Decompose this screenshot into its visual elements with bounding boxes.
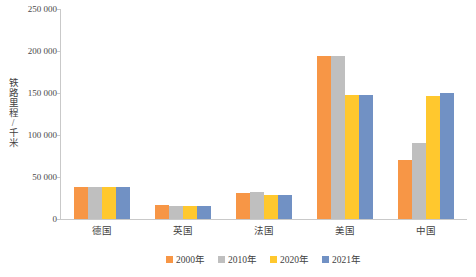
bar-group xyxy=(61,9,142,219)
bar xyxy=(102,187,116,219)
y-tick-label: 250 000 xyxy=(1,4,57,14)
legend-item[interactable]: 2000年 xyxy=(166,252,205,266)
legend-item[interactable]: 2021年 xyxy=(322,252,361,266)
legend-swatch-icon xyxy=(166,256,173,263)
bar xyxy=(412,143,426,219)
bar xyxy=(345,95,359,219)
bar-chart: 铁路里程/千米 250 000200 000150 000100 00050 0… xyxy=(0,0,476,277)
bar xyxy=(278,195,292,219)
bar xyxy=(88,187,102,219)
legend-swatch-icon xyxy=(218,256,225,263)
x-axis-labels: 德国英国法国美国中国 xyxy=(61,223,467,237)
y-tick-label: 150 000 xyxy=(1,88,57,98)
y-tick-label: 0 xyxy=(1,214,57,224)
bar xyxy=(264,195,278,219)
bar xyxy=(440,93,454,219)
y-tick-label: 200 000 xyxy=(1,46,57,56)
x-axis-line xyxy=(61,219,467,220)
legend-swatch-icon xyxy=(322,256,329,263)
x-tick-label: 法国 xyxy=(223,223,304,237)
bar xyxy=(359,95,373,219)
bar xyxy=(183,206,197,219)
bar xyxy=(74,187,88,219)
bar xyxy=(250,192,264,219)
legend-label: 2000年 xyxy=(176,252,205,266)
legend-label: 2020年 xyxy=(280,252,309,266)
bar-group xyxy=(386,9,467,219)
y-axis-ticks: 250 000200 000150 000100 00050 0000 xyxy=(0,0,57,277)
x-tick-label: 德国 xyxy=(61,223,142,237)
y-tick-label: 100 000 xyxy=(1,130,57,140)
x-tick-label: 英国 xyxy=(142,223,223,237)
bar xyxy=(236,193,250,219)
bar-group xyxy=(305,9,386,219)
bar xyxy=(398,160,412,219)
legend-label: 2010年 xyxy=(228,252,257,266)
x-tick-label: 中国 xyxy=(386,223,467,237)
bar xyxy=(116,187,130,219)
bar xyxy=(197,206,211,219)
bar xyxy=(169,206,183,219)
legend-swatch-icon xyxy=(270,256,277,263)
legend-item[interactable]: 2020年 xyxy=(270,252,309,266)
legend-label: 2021年 xyxy=(332,252,361,266)
y-tick-label: 50 000 xyxy=(1,172,57,182)
bar-group xyxy=(223,9,304,219)
x-tick-label: 美国 xyxy=(305,223,386,237)
bar xyxy=(317,56,331,219)
bar-group xyxy=(142,9,223,219)
bar-groups xyxy=(61,9,467,219)
chart-legend: 2000年2010年2020年2021年 xyxy=(166,252,361,266)
bar xyxy=(426,96,440,219)
bar xyxy=(155,205,169,219)
bar xyxy=(331,56,345,219)
legend-item[interactable]: 2010年 xyxy=(218,252,257,266)
